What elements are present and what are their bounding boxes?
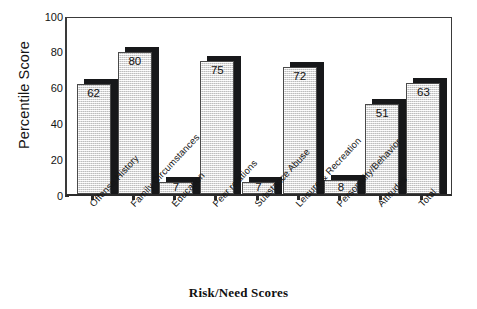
bar-value-label: 63	[406, 87, 440, 99]
y-tick-label-0: 0	[37, 191, 63, 202]
x-axis-title: Risk/Need Scores	[0, 285, 477, 301]
bar-value-label: 8	[324, 182, 358, 194]
bar-value-label: 72	[283, 71, 317, 83]
bar-value-label: 7	[159, 182, 193, 194]
y-tick-label-60: 60	[37, 83, 63, 94]
bar-9: 63	[406, 83, 440, 195]
bar-value-label: 62	[77, 88, 111, 100]
bar-3: 7	[159, 182, 193, 194]
bar-1: 62	[77, 84, 111, 194]
y-tick-label-80: 80	[37, 47, 63, 58]
bar-value-label: 75	[200, 65, 234, 77]
bar-7: 8	[324, 180, 358, 194]
bar-4: 75	[200, 61, 234, 194]
bar-value-label: 51	[365, 108, 399, 120]
bar-chart: Percentile Score 100 80 60 40 20 0 62807…	[0, 0, 477, 309]
y-axis-title: Percentile Score	[13, 0, 35, 190]
y-tick-label-100: 100	[37, 12, 63, 23]
bar-value-label: 7	[242, 182, 276, 194]
bar-face	[406, 83, 440, 195]
bar-face	[77, 84, 111, 194]
y-tick-label-40: 40	[37, 119, 63, 130]
y-axis-tick-labels: 100 80 60 40 20 0	[36, 0, 63, 309]
bar-face	[200, 61, 234, 194]
bar-5: 7	[242, 182, 276, 194]
bar-value-label: 80	[118, 56, 152, 68]
y-tick-label-20: 20	[37, 155, 63, 166]
